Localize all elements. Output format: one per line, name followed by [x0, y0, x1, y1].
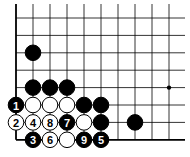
move-number-label: 7	[64, 117, 70, 129]
go-board-svg: 124873695	[0, 0, 190, 157]
move-number-label: 1	[13, 100, 19, 112]
white-stone	[59, 132, 75, 148]
move-number-label: 8	[47, 117, 53, 129]
move-number-label: 6	[47, 134, 53, 146]
star-point	[167, 85, 171, 89]
move-number-label: 3	[30, 134, 36, 146]
black-stone	[93, 97, 109, 113]
move-number-label: 4	[30, 117, 37, 129]
white-stone	[25, 97, 41, 113]
black-stone	[25, 45, 41, 61]
white-stone	[42, 97, 58, 113]
black-stone	[42, 80, 58, 96]
move-number-label: 2	[13, 117, 19, 129]
go-board-diagram: 124873695	[0, 0, 190, 157]
black-stone	[127, 115, 143, 131]
move-number-label: 5	[98, 134, 104, 146]
black-stone	[59, 80, 75, 96]
black-stone	[76, 97, 92, 113]
white-stone	[59, 97, 75, 113]
black-stone	[25, 80, 41, 96]
move-number-label: 9	[81, 134, 87, 146]
black-stone	[93, 115, 109, 131]
white-stone	[76, 115, 92, 131]
